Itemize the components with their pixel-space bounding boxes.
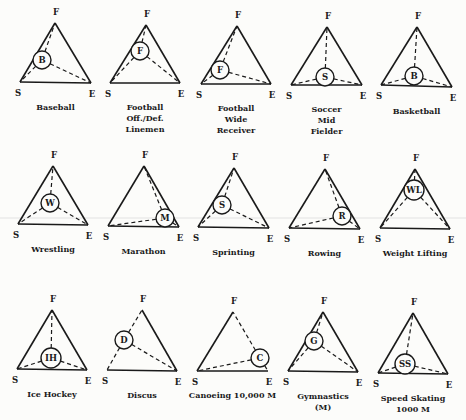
- vertex-label-s: S: [284, 234, 290, 244]
- sport-title: Baseball: [36, 102, 74, 112]
- vertex-label-e: E: [175, 377, 182, 387]
- dashed-spoke-s: [197, 360, 251, 371]
- sport-title: Speed Skating: [381, 393, 446, 403]
- marker-label: IH: [45, 353, 57, 363]
- marker-label: B: [38, 55, 45, 65]
- triangle-edge-fe: [415, 169, 450, 229]
- vertex-label-f: F: [325, 11, 331, 21]
- vertex-label-e: E: [89, 89, 96, 99]
- triangle-edge-fe: [323, 312, 358, 372]
- sport-title: Rowing: [308, 248, 342, 258]
- vertex-label-s: S: [15, 88, 21, 98]
- vertex-label-e: E: [86, 231, 93, 241]
- vertex-label-f: F: [142, 150, 148, 160]
- marker-label: S: [219, 200, 225, 210]
- marker-label: SS: [399, 359, 411, 369]
- sport-title: Canoeing 10,000 M: [189, 390, 276, 400]
- vertex-label-s: S: [192, 377, 198, 387]
- vertex-label-f: F: [50, 294, 56, 304]
- marker-label: W: [44, 198, 55, 208]
- dashed-spoke-f: [325, 27, 327, 68]
- vertex-label-e: E: [267, 234, 274, 244]
- sport-title: 1000 M: [396, 404, 430, 414]
- vertex-label-e: E: [448, 235, 455, 245]
- sport-title: Football: [127, 102, 163, 112]
- vertex-label-e: E: [177, 233, 184, 243]
- panel-canoeing: CFSECanoeing 10,000 M: [189, 296, 276, 400]
- panel-discus: DFSEDiscus: [102, 294, 182, 400]
- vertex-label-e: E: [266, 377, 273, 387]
- vertex-label-f: F: [232, 152, 238, 162]
- vertex-label-f: F: [235, 10, 241, 20]
- sport-title: Linemen: [126, 124, 165, 134]
- dashed-spoke-s: [288, 348, 308, 371]
- dashed-spoke-f: [415, 27, 417, 67]
- sport-title: Basketball: [393, 106, 441, 116]
- marker-label: R: [338, 211, 346, 221]
- sport-title: Soccer: [311, 104, 342, 114]
- triangle-edge-se: [17, 369, 87, 370]
- panel-weight-lifting: WLFSEWeight Lifting: [375, 153, 455, 258]
- triangle-edge-fe: [237, 26, 271, 84]
- vertex-label-s: S: [196, 90, 202, 100]
- sport-title: Ice Hockey: [27, 389, 77, 399]
- marker-label: B: [410, 71, 417, 81]
- marker-label: F: [217, 65, 223, 75]
- dashed-spoke-f: [129, 310, 142, 332]
- vertex-label-e: E: [178, 89, 185, 99]
- sport-title: Sprinting: [212, 247, 255, 257]
- vertex-label-s: S: [376, 91, 382, 101]
- vertex-label-f: F: [415, 11, 421, 21]
- vertex-label-s: S: [283, 377, 289, 387]
- vertex-label-e: E: [446, 380, 453, 390]
- panel-baseball: BFSEBaseball: [15, 7, 96, 112]
- dashed-spoke-f: [144, 166, 162, 210]
- dashed-spoke-f: [233, 312, 255, 350]
- panel-football-linemen: FFSEFootballOff./Def.Linemen: [105, 9, 185, 134]
- triangle-edge-se: [20, 82, 91, 83]
- panel-soccer-midfielder: SFSESoccerMidFielder: [286, 11, 367, 136]
- sport-triangle-diagram: BFSEBaseballFFSEFootballOff./Def.Linemen…: [0, 0, 466, 420]
- sport-title: (M): [315, 402, 332, 412]
- panel-basketball: BFSEBasketball: [376, 11, 457, 116]
- panel-sprinting: SFSESprinting: [193, 152, 274, 257]
- panel-wrestling: WFSEWrestling: [13, 150, 93, 254]
- dashed-spoke-f: [414, 169, 415, 180]
- triangle-edge-fs: [108, 166, 144, 226]
- triangle-edge-fe: [142, 310, 177, 371]
- triangle-edge-se: [198, 227, 269, 228]
- vertex-label-s: S: [286, 91, 292, 101]
- marker-label: WL: [405, 185, 422, 195]
- vertex-label-f: F: [411, 297, 417, 307]
- panel-speed-skating: SSFSESpeed Skating1000 M: [373, 297, 453, 414]
- vertex-label-e: E: [358, 235, 365, 245]
- sport-title: Receiver: [217, 125, 256, 135]
- vertex-label-s: S: [12, 375, 18, 385]
- vertex-label-f: F: [51, 150, 57, 160]
- vertex-label-e: E: [450, 93, 457, 103]
- vertex-label-f: F: [321, 296, 327, 306]
- vertex-label-e: E: [356, 378, 363, 388]
- vertex-label-s: S: [373, 379, 379, 389]
- marker-label: C: [257, 353, 264, 363]
- triangle-edge-fs: [289, 169, 325, 228]
- sport-title: Mid: [318, 115, 336, 125]
- triangle-edge-fe: [413, 313, 448, 374]
- dashed-spoke-s: [108, 219, 156, 226]
- triangle-edge-se: [107, 370, 177, 371]
- vertex-label-e: E: [269, 90, 276, 100]
- vertex-label-s: S: [193, 233, 199, 243]
- panel-gymnastics: GFSEGymnastics(M): [283, 296, 363, 412]
- vertex-label-f: F: [413, 153, 419, 163]
- sport-title: Weight Lifting: [382, 248, 448, 258]
- triangle-edge-fe: [53, 166, 88, 225]
- dashed-spoke-s: [380, 197, 407, 228]
- panel-marathon: MFSEMarathon: [103, 150, 184, 256]
- triangle-edge-se: [380, 228, 450, 229]
- triangle-edge-fs: [197, 312, 233, 371]
- marker-label: D: [120, 335, 128, 345]
- sport-title: Wide: [224, 114, 248, 124]
- dashed-spoke-s: [107, 348, 120, 370]
- vertex-label-s: S: [103, 232, 109, 242]
- panel-rowing: RFSERowing: [284, 153, 365, 258]
